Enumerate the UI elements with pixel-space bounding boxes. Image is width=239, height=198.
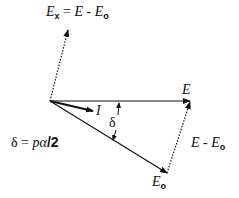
eo-symbol: E (211, 135, 220, 150)
vector-i (50, 101, 93, 111)
label-delta: δ (109, 116, 116, 130)
eo-symbol: E (152, 174, 161, 189)
eo-subscript: o (220, 142, 226, 152)
label-i: I (96, 104, 101, 118)
eo-symbol: E (95, 4, 104, 19)
label-eo: Eo (152, 175, 166, 191)
delta-angle-arrow-up (118, 103, 119, 115)
label-delta-equation: δ = pα/2 (11, 135, 59, 150)
vector-eo (50, 101, 167, 173)
eo-subscript: o (161, 181, 167, 191)
label-ex-equation: Ex = E - Eo (46, 5, 109, 21)
equals-sign: = (60, 4, 75, 19)
minus-sign: - (83, 4, 95, 19)
eo-subscript: o (103, 11, 109, 21)
delta-symbol: δ (11, 135, 18, 150)
label-e: E (182, 83, 191, 97)
delta-angle-arrow-down (113, 130, 116, 140)
phasor-diagram (0, 0, 239, 198)
label-e-minus-eo: E - Eo (191, 136, 225, 152)
vector-ex (50, 30, 68, 101)
ex-symbol: E (46, 4, 55, 19)
vector-e-minus-eo (167, 102, 190, 173)
minus-sign: - (200, 135, 212, 150)
e-symbol: E (191, 135, 200, 150)
equals-sign: = (18, 135, 33, 150)
e-symbol: E (74, 4, 83, 19)
p-alpha: pα (33, 135, 47, 150)
divide-by-two: /2 (47, 134, 59, 150)
